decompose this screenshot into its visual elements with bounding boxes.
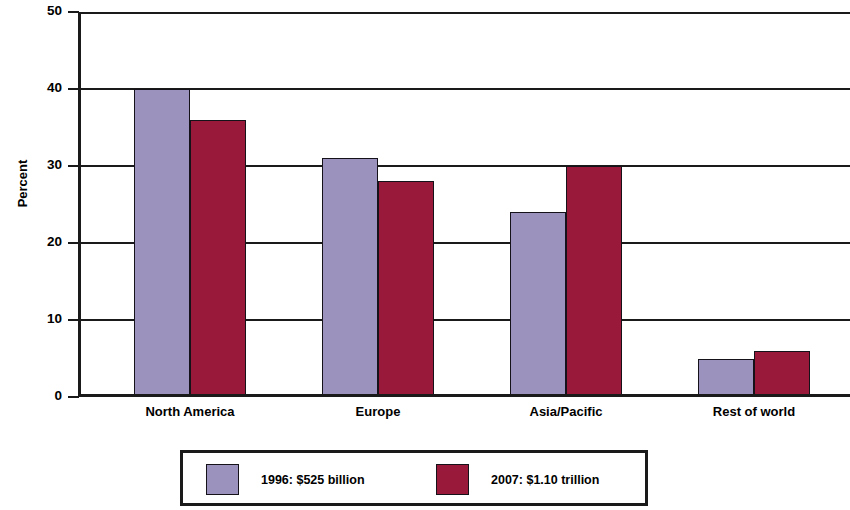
y-tick-label: 10 bbox=[6, 311, 62, 326]
legend-label-2007: 2007: $1.10 trillion bbox=[491, 473, 599, 487]
bar bbox=[754, 351, 810, 397]
bar bbox=[378, 181, 434, 397]
x-tick-label: Rest of world bbox=[694, 404, 814, 419]
bar-group bbox=[134, 12, 246, 397]
y-tick-mark bbox=[68, 88, 79, 91]
y-axis-title: Percent bbox=[15, 134, 30, 234]
bar bbox=[322, 158, 378, 397]
bar bbox=[190, 120, 246, 397]
bar-group bbox=[510, 12, 622, 397]
bar bbox=[566, 166, 622, 397]
y-tick-mark bbox=[68, 319, 79, 322]
bar-chart: Percent 01020304050 North AmericaEuropeA… bbox=[0, 0, 850, 510]
bar-group bbox=[698, 12, 810, 397]
x-tick-label: Europe bbox=[318, 404, 438, 419]
chart-legend: 1996: $525 billion 2007: $1.10 trillion bbox=[180, 450, 648, 506]
legend-label-1996: 1996: $525 billion bbox=[261, 473, 365, 487]
y-tick-label: 40 bbox=[6, 80, 62, 95]
bars-layer bbox=[78, 12, 850, 397]
legend-swatch-1996 bbox=[206, 464, 239, 495]
plot-area bbox=[78, 12, 850, 397]
x-tick-label: North America bbox=[130, 404, 250, 419]
y-tick-mark bbox=[68, 11, 79, 14]
y-tick-mark bbox=[68, 242, 79, 245]
x-tick-label: Asia/Pacific bbox=[506, 404, 626, 419]
y-tick-label: 0 bbox=[6, 388, 62, 403]
x-axis-baseline bbox=[78, 394, 850, 397]
bar bbox=[134, 89, 190, 397]
legend-swatch-2007 bbox=[436, 464, 469, 495]
bar bbox=[698, 359, 754, 398]
bar bbox=[510, 212, 566, 397]
bar-group bbox=[322, 12, 434, 397]
legend-item-2007: 2007: $1.10 trillion bbox=[436, 464, 599, 495]
y-tick-label: 20 bbox=[6, 234, 62, 249]
y-tick-label: 30 bbox=[6, 157, 62, 172]
y-tick-mark bbox=[68, 396, 79, 399]
y-tick-label: 50 bbox=[6, 3, 62, 18]
y-tick-mark bbox=[68, 165, 79, 168]
legend-item-1996: 1996: $525 billion bbox=[206, 464, 365, 495]
